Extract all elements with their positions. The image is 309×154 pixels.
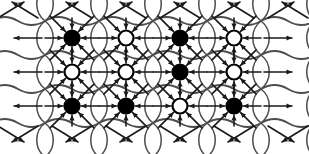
lattice-node-filled — [119, 99, 134, 114]
lattice-node-filled — [173, 31, 188, 46]
lattice-node-open — [173, 99, 188, 114]
figure-root — [0, 0, 309, 154]
lattice-node-open — [227, 31, 242, 46]
lattice-node-filled — [65, 31, 80, 46]
lattice-node-open — [119, 65, 134, 80]
lattice-node-open — [227, 65, 242, 80]
lattice-node-open — [65, 65, 80, 80]
lattice-node-filled — [173, 65, 188, 80]
lattice-node-open — [119, 31, 134, 46]
lattice-node-filled — [227, 99, 242, 114]
lattice-vector-field — [0, 0, 309, 154]
lattice-node-filled — [65, 99, 80, 114]
